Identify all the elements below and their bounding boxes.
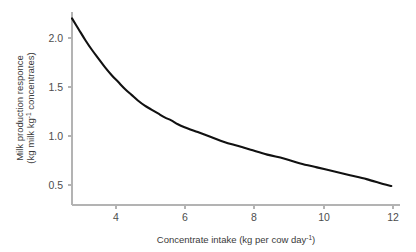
y-axis-title-line1: Milk production responce [14,55,25,161]
x-tick-label-8: 8 [251,211,257,223]
y-axis-title-line2: (kg milk kg-1 concentrates) [25,52,37,163]
x-tick-label-4: 4 [113,211,119,223]
chart-plot-area: 2.0 1.5 1.0 0.5 4 6 8 10 12 Concentrate … [0,0,416,252]
x-axis-title: Concentrate intake (kg per cow day-1) [157,234,315,246]
x-tick-label-10: 10 [318,211,330,223]
y-tick-label-05: 0.5 [48,179,63,191]
y-tick-label-20: 2.0 [48,32,63,44]
y-tick-label-15: 1.5 [48,81,63,93]
x-tick-label-6: 6 [182,211,188,223]
y-tick-label-10: 1.0 [48,130,63,142]
chart-figure: 2.0 1.5 1.0 0.5 4 6 8 10 12 Concentrate … [0,0,416,252]
x-tick-label-12: 12 [387,211,399,223]
milk-response-curve [72,18,391,186]
